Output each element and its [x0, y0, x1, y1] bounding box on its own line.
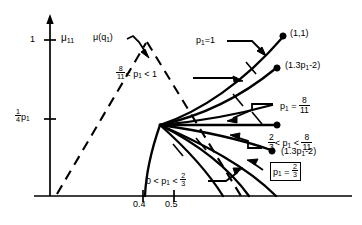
curve-p1-equals-2-3: [160, 125, 271, 150]
quarter-denominator: 4: [15, 116, 21, 123]
label-range-0-to-2-3: 0 < p1 < 23: [146, 172, 186, 188]
leader-p1-equals-1: [227, 41, 262, 51]
label-point-13p1-upper: (1.3p1-2): [285, 61, 320, 71]
p1-2-3-denominator: 3: [292, 171, 298, 178]
y-axis-arrowhead: [46, 14, 53, 24]
range-2-3-denominator: 3: [268, 143, 275, 152]
x-tick-label-0-4: 0.4: [133, 200, 146, 209]
y-axis-name: μ11: [61, 33, 74, 44]
label-point-13p1-lower: (1.3p1-2): [281, 147, 316, 157]
x-tick-label-0-5: 0.5: [165, 200, 178, 209]
figure-container: 1 μ11 14p1 0.4 0.5 μ(q1) p1=1 811< p1 < …: [0, 0, 362, 225]
leader-p1-equals-2-3-arrowhead: [247, 159, 258, 165]
range-8-11-denominator: 11: [116, 73, 125, 80]
y-tick-label-quarter-p1: 14p1: [15, 108, 30, 124]
label-p1-equals-2-3: p1 = 23: [270, 162, 301, 181]
label-p1-equals-8-11: p1 = 811: [280, 96, 310, 114]
label-point-1-1: (1,1): [290, 29, 309, 38]
y-tick-label-1: 1: [30, 35, 35, 44]
p1-8-11-denominator: 11: [299, 106, 310, 115]
hatch-mark-3: [252, 112, 262, 124]
label-range-8-11-to-1: 811< p1 < 1: [116, 65, 157, 81]
range-0-denominator: 3: [180, 180, 186, 187]
leader-p1-equals-8-11-arrowhead: [227, 117, 237, 123]
label-mu-q1: μ(q1): [93, 33, 113, 43]
endpoint-dot-1-1: [280, 33, 286, 39]
endpoint-dot-flat-curve: [274, 122, 280, 128]
leader-mu-q1-arrowhead: [141, 49, 149, 58]
endpoint-dot-13p1-upper: [274, 65, 280, 71]
label-p1-equals-1: p1=1: [196, 36, 215, 46]
